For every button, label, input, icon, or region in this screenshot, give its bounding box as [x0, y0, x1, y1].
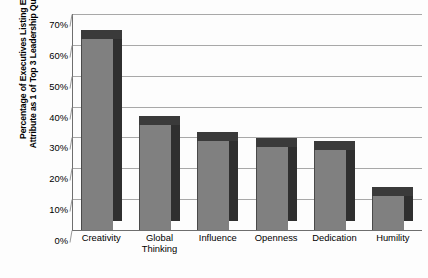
bar-top-corner: [288, 138, 297, 147]
gridline: [72, 168, 422, 169]
bar-side-face: [229, 132, 238, 221]
plot-area: [72, 14, 422, 230]
bar-front-face: [81, 39, 113, 230]
bar-top-face: [372, 187, 404, 196]
x-axis-tick-label: GlobalThinking: [130, 232, 188, 254]
bar-front-face: [314, 150, 346, 230]
x-axis-tick-label-line: Humility: [364, 232, 422, 243]
bar: [256, 138, 288, 230]
x-axis-tick-label-line: Thinking: [130, 243, 188, 254]
bar-top-corner: [113, 30, 122, 39]
y-axis-tick-label: 0%: [34, 236, 68, 246]
bar-top-corner: [404, 187, 413, 196]
bar-chart-figure: Percentage of Executives Listing Each At…: [0, 0, 428, 278]
bar-front-face: [197, 141, 229, 230]
y-axis-tick-label: 50%: [34, 82, 68, 92]
y-axis-tick-label: 60%: [34, 51, 68, 61]
bar-side-face: [171, 116, 180, 221]
y-axis-tick-labels: 70%60%50%40%30%20%10%0%: [28, 0, 68, 278]
bar: [314, 141, 346, 230]
x-axis-tick-label-line: Global: [130, 232, 188, 243]
y-axis-tick-label: 10%: [34, 205, 68, 215]
gridline: [72, 107, 422, 108]
bar-side-face: [288, 138, 297, 221]
gridline: [72, 45, 422, 46]
y-axis-tick-label: 30%: [34, 143, 68, 153]
bar: [139, 116, 171, 230]
bar-side-face: [113, 30, 122, 221]
bar-top-face: [81, 30, 113, 39]
bar-top-face: [256, 138, 288, 147]
y-axis-title-line-1: Percentage of Executives Listing Each: [18, 0, 29, 139]
bar-top-corner: [229, 132, 238, 141]
bar: [197, 132, 229, 230]
bar-top-corner: [171, 116, 180, 125]
x-axis-tick-label: Influence: [189, 232, 247, 243]
x-axis-tick-label-line: Creativity: [72, 232, 130, 243]
bar-front-face: [256, 147, 288, 230]
x-axis-tick-label-line: Influence: [189, 232, 247, 243]
bar-top-face: [139, 116, 171, 125]
x-axis-tick-label-line: Openness: [247, 232, 305, 243]
y-axis-tick-label: 20%: [34, 174, 68, 184]
bar-top-face: [197, 132, 229, 141]
cropped-caption: [8, 272, 420, 278]
x-axis-tick-label: Openness: [247, 232, 305, 243]
x-axis-tick-label: Creativity: [72, 232, 130, 243]
bar: [372, 187, 404, 230]
x-axis-tick-labels: CreativityGlobalThinkingInfluenceOpennes…: [72, 232, 422, 266]
gridline: [72, 137, 422, 138]
bar-side-face: [346, 141, 355, 221]
y-axis-tick-label: 70%: [34, 20, 68, 30]
x-axis-tick-label: Dedication: [305, 232, 363, 243]
gridline: [72, 199, 422, 200]
bar: [81, 30, 113, 230]
bar-front-face: [139, 125, 171, 230]
x-axis-tick-label: Humility: [364, 232, 422, 243]
gridline: [72, 76, 422, 77]
bar-top-face: [314, 141, 346, 150]
y-axis-tick-label: 40%: [34, 113, 68, 123]
bar-top-corner: [346, 141, 355, 150]
gridline: [72, 14, 422, 15]
gridline: [72, 230, 422, 231]
x-axis-tick-label-line: Dedication: [305, 232, 363, 243]
bar-front-face: [372, 196, 404, 230]
